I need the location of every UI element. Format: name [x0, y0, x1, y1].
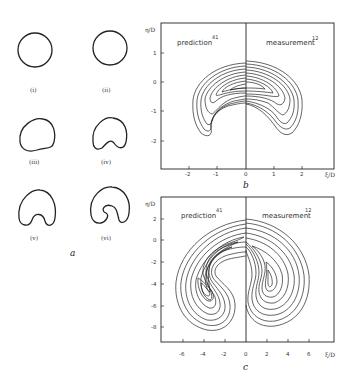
shape-vi: [91, 187, 130, 223]
svg-text:-2: -2: [221, 351, 226, 357]
panel-c: η/D prediction 41 measurement 12 2 0 -2 …: [145, 197, 335, 372]
panel-b-right-title: measurement: [266, 39, 315, 47]
svg-text:-4: -4: [151, 281, 157, 287]
panel-c-yaxis: 2 0 -2 -4 -6 -8: [151, 216, 164, 330]
panel-c-right-title: measurement: [262, 212, 311, 220]
shape-label-i: (i): [30, 86, 37, 93]
panel-c-left-ref: 41: [216, 207, 222, 213]
svg-text:0: 0: [244, 171, 248, 177]
shape-label-iv: (iv): [101, 158, 111, 165]
svg-text:-1: -1: [213, 171, 218, 177]
shape-label-iii: (iii): [29, 158, 39, 165]
panel-c-measurement-contours: [246, 219, 309, 326]
svg-text:0: 0: [153, 237, 157, 243]
svg-text:1: 1: [153, 50, 157, 56]
panel-b-label: b: [243, 180, 249, 190]
svg-text:2: 2: [153, 216, 157, 222]
shape-label-v: (v): [30, 234, 38, 241]
panel-a: (i) (ii) (iii) (iv) (v) (vi) a: [18, 31, 129, 258]
svg-text:6: 6: [307, 351, 311, 357]
shape-iii: [20, 119, 55, 151]
svg-text:0: 0: [153, 79, 157, 85]
svg-text:-8: -8: [151, 324, 157, 330]
svg-text:-6: -6: [151, 303, 157, 309]
panel-c-left-title: prediction: [181, 212, 216, 220]
svg-text:-2: -2: [151, 259, 156, 265]
panel-b-right-ref: 12: [312, 35, 318, 41]
panel-c-ylabel: η/D: [145, 200, 156, 208]
panel-c-xlabel: ξ/D: [325, 351, 335, 359]
shape-i: [18, 33, 52, 67]
panel-b-measurement-contours: [246, 61, 302, 135]
svg-text:-2: -2: [151, 138, 156, 144]
svg-text:4: 4: [286, 351, 290, 357]
svg-text:0: 0: [244, 351, 248, 357]
panel-c-prediction-contours: [176, 220, 246, 330]
shape-label-ii: (ii): [102, 86, 111, 93]
panel-c-label: c: [243, 362, 248, 372]
panel-c-right-ref: 12: [305, 207, 311, 213]
panel-b-left-title: prediction: [177, 39, 212, 47]
figure: (i) (ii) (iii) (iv) (v) (vi) a η/D predi…: [0, 0, 351, 386]
shape-iv: [93, 118, 127, 149]
panel-b-prediction-contours: [193, 63, 246, 136]
svg-text:-4: -4: [200, 351, 206, 357]
shape-label-vi: (vi): [101, 234, 111, 241]
shape-ii: [93, 31, 127, 65]
panel-b: η/D prediction 41 measurement 12 1 0 -1 …: [145, 23, 335, 190]
svg-text:-2: -2: [185, 171, 190, 177]
svg-text:2: 2: [300, 171, 304, 177]
panel-b-xaxis: -2 -1 0 1 2 ξ/D: [185, 166, 335, 179]
svg-text:1: 1: [272, 171, 276, 177]
panel-b-xlabel: ξ/D: [325, 171, 335, 179]
panel-a-label: a: [70, 248, 75, 258]
svg-text:2: 2: [265, 351, 269, 357]
svg-text:-1: -1: [151, 108, 156, 114]
shape-v: [19, 190, 56, 225]
panel-b-left-ref: 41: [212, 34, 218, 40]
panel-b-yaxis: 1 0 -1 -2: [151, 50, 164, 144]
panel-b-ylabel: η/D: [145, 26, 156, 34]
svg-text:-6: -6: [179, 351, 185, 357]
